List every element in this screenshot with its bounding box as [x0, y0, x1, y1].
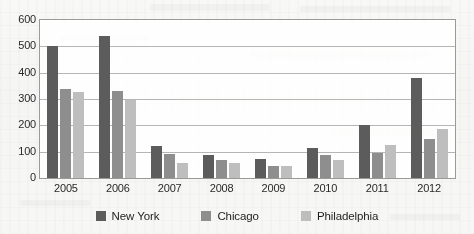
bar-group-2006 — [92, 20, 144, 178]
bar-chicago-2005 — [60, 89, 71, 178]
legend-label: New York — [112, 210, 160, 222]
scan-texture-blotch — [150, 4, 270, 11]
x-tick-label-2009: 2009 — [248, 182, 300, 195]
bar-philadelphia-2006 — [125, 100, 136, 178]
bar-philadelphia-2007 — [177, 163, 188, 178]
x-tick-label-2011: 2011 — [351, 182, 403, 195]
bar-chicago-2008 — [216, 160, 227, 178]
bar-new-york-2010 — [307, 148, 318, 178]
bar-philadelphia-2011 — [385, 145, 396, 178]
bar-new-york-2008 — [203, 155, 214, 178]
legend-label: Philadelphia — [317, 210, 378, 222]
x-tick-label-2008: 2008 — [196, 182, 248, 195]
x-tick-label-2005: 2005 — [40, 182, 92, 195]
bar-new-york-2011 — [359, 125, 370, 178]
legend-item-new-york[interactable]: New York — [96, 210, 160, 222]
bar-group-2007 — [144, 20, 196, 178]
bar-group-2010 — [299, 20, 351, 178]
bar-group-2012 — [403, 20, 455, 178]
x-axis: 20052006200720082009201020112012 — [40, 182, 455, 198]
chart-legend: New YorkChicagoPhiladelphia — [0, 207, 474, 225]
x-tick-label-2012: 2012 — [403, 182, 455, 195]
bar-chicago-2011 — [372, 153, 383, 178]
x-tick-label-2006: 2006 — [92, 182, 144, 195]
bar-new-york-2012 — [411, 78, 422, 178]
y-tick-label-0: 0 — [2, 172, 36, 183]
bar-group-2011 — [351, 20, 403, 178]
bar-chicago-2006 — [112, 91, 123, 178]
x-tick-label-2010: 2010 — [299, 182, 351, 195]
bar-group-2005 — [40, 20, 92, 178]
legend-label: Chicago — [217, 210, 259, 222]
y-tick-label-500: 500 — [2, 40, 36, 51]
scan-texture-blotch — [300, 6, 450, 12]
legend-item-philadelphia[interactable]: Philadelphia — [301, 210, 378, 222]
bar-philadelphia-2010 — [333, 160, 344, 178]
scan-texture-blotch — [20, 200, 90, 206]
bar-group-2009 — [248, 20, 300, 178]
legend-swatch-chicago — [201, 211, 211, 221]
y-tick-label-600: 600 — [2, 14, 36, 25]
bar-new-york-2007 — [151, 146, 162, 178]
bar-philadelphia-2005 — [73, 92, 84, 178]
bar-chart-figure: 0100200300400500600 20052006200720082009… — [0, 0, 474, 234]
y-tick-label-100: 100 — [2, 146, 36, 157]
x-tick-label-2007: 2007 — [144, 182, 196, 195]
bars-layer — [40, 20, 455, 178]
legend-item-chicago[interactable]: Chicago — [201, 210, 259, 222]
bar-new-york-2006 — [99, 36, 110, 178]
y-tick-label-300: 300 — [2, 93, 36, 104]
bar-chicago-2007 — [164, 154, 175, 178]
legend-swatch-philadelphia — [301, 211, 311, 221]
bar-philadelphia-2009 — [281, 166, 292, 178]
bar-philadelphia-2008 — [229, 163, 240, 178]
bar-chicago-2010 — [320, 155, 331, 178]
y-tick-label-200: 200 — [2, 119, 36, 130]
y-tick-label-400: 400 — [2, 67, 36, 78]
bar-group-2008 — [196, 20, 248, 178]
y-axis: 0100200300400500600 — [0, 19, 36, 179]
bar-new-york-2009 — [255, 159, 266, 178]
bar-chicago-2012 — [424, 139, 435, 178]
bar-chicago-2009 — [268, 166, 279, 178]
bar-philadelphia-2012 — [437, 129, 448, 178]
bar-new-york-2005 — [47, 46, 58, 178]
legend-swatch-new-york — [96, 211, 106, 221]
